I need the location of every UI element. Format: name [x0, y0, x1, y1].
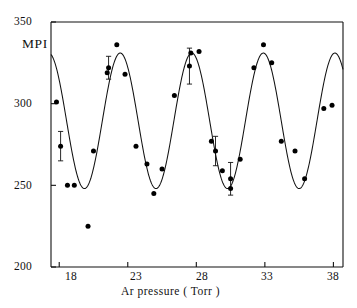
- y-tick-label-200: 200: [14, 260, 32, 272]
- x-axis-label: Ar pressure ( Torr ): [121, 285, 220, 297]
- mpi-vs-ar-pressure-chart: MPI Ar pressure ( Torr ) 200 250 300 350…: [0, 0, 357, 308]
- x-tick-label-33: 33: [261, 270, 273, 282]
- plot-canvas: [0, 0, 357, 308]
- data-points: [54, 42, 335, 228]
- y-axis-label: MPI: [22, 36, 48, 52]
- x-tick-label-23: 23: [130, 270, 142, 282]
- sinusoidal-fit-line: [51, 53, 343, 189]
- error-bars: [58, 48, 233, 195]
- x-tick-label-38: 38: [327, 270, 339, 282]
- x-tick-label-18: 18: [65, 270, 77, 282]
- y-tick-label-350: 350: [14, 15, 32, 27]
- y-tick-label-250: 250: [14, 179, 32, 191]
- y-tick-label-300: 300: [14, 97, 32, 109]
- x-tick-label-28: 28: [196, 270, 208, 282]
- axis-ticks: [51, 22, 333, 267]
